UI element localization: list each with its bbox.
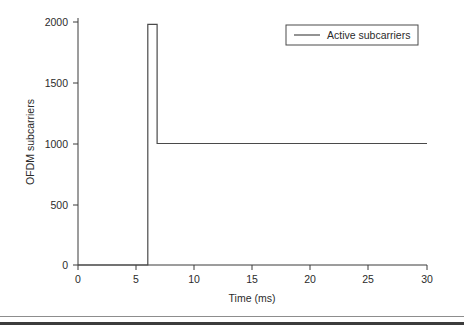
- y-tick-label-0: 0: [62, 259, 68, 271]
- x-tick-label-0: 0: [75, 273, 81, 285]
- x-tick-label-30: 30: [421, 273, 433, 285]
- y-tick-labels: 2000 1500 1000 500 0: [45, 16, 69, 271]
- x-tick-label-10: 10: [188, 273, 200, 285]
- y-tick-label-1000: 1000: [45, 138, 69, 150]
- x-tick-label-15: 15: [246, 273, 258, 285]
- y-axis-title: OFDM subcarriers: [24, 99, 36, 185]
- chart-svg: 2000 1500 1000 500 0 0 5 10 15 20 25 30: [0, 0, 464, 329]
- y-tick-label-2000: 2000: [45, 16, 69, 28]
- series-line-active-subcarriers: [78, 24, 427, 265]
- x-tick-labels: 0 5 10 15 20 25 30: [75, 273, 433, 285]
- chart-legend[interactable]: Active subcarriers: [286, 25, 418, 45]
- scan-edge-light: [0, 316, 464, 317]
- y-tick-label-1500: 1500: [45, 77, 69, 89]
- axis-lines: [78, 18, 427, 265]
- x-tick-label-5: 5: [133, 273, 139, 285]
- x-tick-label-20: 20: [304, 273, 316, 285]
- x-tick-label-25: 25: [362, 273, 374, 285]
- plot-axes: [78, 18, 427, 265]
- scan-edge-dark: [0, 322, 464, 325]
- chart-figure: 2000 1500 1000 500 0 0 5 10 15 20 25 30: [0, 0, 464, 329]
- series-active-subcarriers: [78, 24, 427, 265]
- y-tick-label-500: 500: [50, 199, 68, 211]
- y-ticks: [73, 22, 78, 265]
- x-axis-title: Time (ms): [229, 292, 276, 304]
- x-ticks: [78, 265, 427, 270]
- legend-label-active-subcarriers: Active subcarriers: [327, 29, 410, 41]
